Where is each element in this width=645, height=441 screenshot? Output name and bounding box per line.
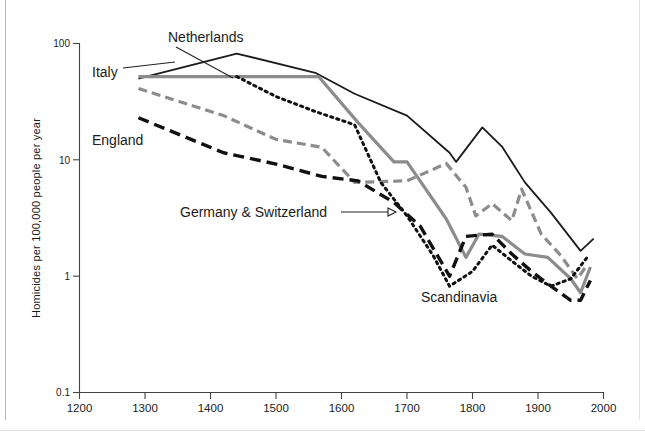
y-tick-label-10: 10 bbox=[59, 155, 71, 166]
y-tick-label-0.1: 0.1 bbox=[56, 387, 70, 398]
series-label-netherlands: Netherlands bbox=[168, 29, 244, 45]
x-tick-label-1900: 1900 bbox=[525, 402, 551, 414]
x-tick-marks bbox=[80, 393, 604, 400]
x-tick-label-1800: 1800 bbox=[460, 402, 486, 414]
leader-line-netherlands bbox=[176, 47, 233, 78]
y-axis-title: Homicides per 100,000 people per year bbox=[30, 118, 42, 318]
x-tick-labels: 1200 1300 1400 1500 1600 1700 1800 1900 … bbox=[67, 402, 617, 414]
series-label-england: England bbox=[92, 132, 143, 148]
series-label-italy: Italy bbox=[92, 64, 118, 80]
y-tick-marks bbox=[73, 44, 80, 393]
x-tick-label-1600: 1600 bbox=[329, 402, 355, 414]
leader-line-italy bbox=[123, 62, 175, 68]
x-tick-label-1200: 1200 bbox=[67, 402, 93, 414]
x-tick-label-1400: 1400 bbox=[198, 402, 224, 414]
x-tick-label-2000: 2000 bbox=[591, 402, 617, 414]
series-label-scandinavia: Scandinavia bbox=[421, 289, 497, 305]
leader-arrow-germany-switzerland bbox=[388, 208, 396, 216]
chart-page: 100 10 1 0.1 1200 1300 1400 1500 1600 17… bbox=[0, 0, 645, 441]
series-label-germany-switzerland: Germany & Switzerland bbox=[180, 204, 327, 220]
series-paths bbox=[138, 54, 593, 301]
series-line-italy bbox=[138, 54, 593, 251]
homicide-rate-line-chart: 100 10 1 0.1 1200 1300 1400 1500 1600 17… bbox=[0, 0, 645, 441]
x-tick-label-1700: 1700 bbox=[394, 402, 420, 414]
x-tick-label-1300: 1300 bbox=[132, 402, 158, 414]
y-tick-label-100: 100 bbox=[53, 38, 70, 49]
y-tick-labels: 100 10 1 0.1 bbox=[53, 38, 70, 398]
x-tick-label-1500: 1500 bbox=[263, 402, 289, 414]
axis-group bbox=[73, 43, 604, 399]
y-tick-label-1: 1 bbox=[64, 271, 70, 282]
